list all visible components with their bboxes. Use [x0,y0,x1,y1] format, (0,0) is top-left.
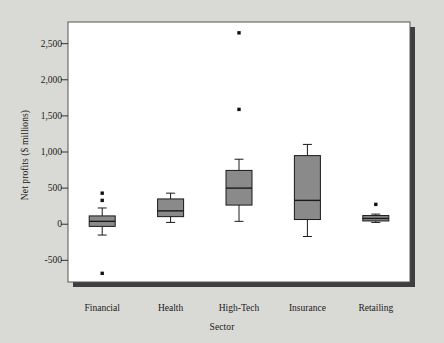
y-axis-title: Net profits ($ millions) [20,70,30,240]
box-iqr [158,199,184,217]
x-tick-label: Financial [85,303,120,313]
outlier-point [101,272,104,275]
y-axis-ticks [61,44,68,261]
chart-figure: -50005001,0001,5002,0002,500 Net profits… [0,0,444,343]
outlier-point [101,199,104,202]
x-tick-label: Health [158,303,183,313]
outlier-point [237,108,240,111]
plot-area [68,22,410,282]
outlier-point [237,31,240,34]
x-tick-label: Retailing [358,303,393,313]
outlier-point [374,203,377,206]
x-tick-label: Insurance [289,303,326,313]
boxplot-svg [0,0,444,343]
y-tick-label: -500 [16,255,62,265]
x-tick-label: High-Tech [219,303,260,313]
y-tick-label: 2,500 [16,39,62,49]
x-axis-title: Sector [187,322,257,332]
box-iqr [294,156,320,220]
outlier-point [101,191,104,194]
